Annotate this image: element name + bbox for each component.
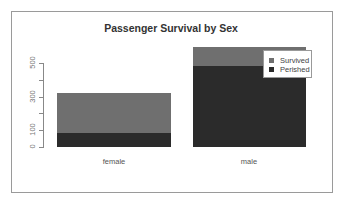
y-tick-label-300: 300: [28, 87, 37, 107]
legend-item-perished: Perished: [269, 65, 310, 74]
bar-female: [57, 93, 171, 147]
y-tick-label-500: 500: [28, 53, 37, 73]
chart-title: Passenger Survival by Sex: [0, 22, 342, 34]
bar-female-survived: [57, 93, 171, 133]
legend-label-perished: Perished: [280, 65, 310, 74]
legend-label-survived: Survived: [280, 56, 309, 65]
y-tick-400: [39, 80, 43, 81]
y-tick-500: [39, 63, 43, 64]
legend-swatch-survived: [269, 58, 274, 63]
bar-male-perished: [193, 66, 306, 147]
legend-swatch-perished: [269, 67, 274, 72]
legend: Survived Perished: [263, 50, 312, 78]
legend-item-survived: Survived: [269, 56, 309, 65]
y-tick-0: [39, 147, 43, 148]
y-tick-label-100: 100: [28, 120, 37, 140]
x-label-male: male: [241, 157, 257, 166]
bar-female-perished: [57, 133, 171, 147]
y-tick-100: [39, 130, 43, 131]
y-tick-300: [39, 97, 43, 98]
y-tick-label-0: 0: [28, 137, 37, 157]
x-label-female: female: [103, 157, 126, 166]
y-axis-line: [43, 63, 44, 148]
y-tick-200: [39, 113, 43, 114]
